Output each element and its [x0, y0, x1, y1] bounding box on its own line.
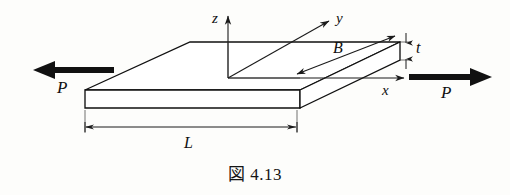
z-axis-label: z: [212, 11, 218, 26]
load-right-label: P: [441, 84, 451, 101]
length-dimension-label: L: [184, 135, 193, 151]
figure-container: z y x B t L P P 図 4.13: [0, 0, 510, 195]
plate-front-face: [85, 90, 300, 108]
x-axis-label: x: [382, 83, 389, 98]
y-axis-label: y: [336, 11, 343, 26]
figure-caption: 図 4.13: [0, 160, 510, 185]
width-dimension-label: B: [333, 40, 343, 56]
load-arrow-left: [33, 61, 114, 79]
thickness-dimension-label: t: [416, 40, 420, 56]
load-left-label: P: [57, 79, 67, 96]
